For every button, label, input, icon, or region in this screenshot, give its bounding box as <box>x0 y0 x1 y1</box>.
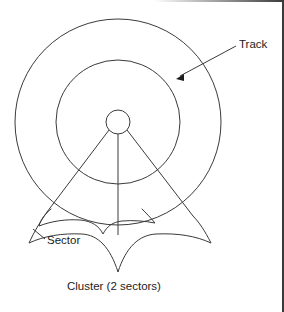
frame-top-border <box>154 0 284 2</box>
diagram-canvas: Track Sector Cluster (2 sectors) <box>0 0 284 312</box>
cluster-caption: Cluster (2 sectors) <box>67 281 161 293</box>
sector-brace <box>39 209 155 234</box>
hub-circle <box>106 110 130 134</box>
frame-right-border <box>282 0 284 312</box>
track-label: Track <box>239 39 267 51</box>
sector-label: Sector <box>47 235 80 247</box>
radial-line-right <box>127 130 193 216</box>
radial-line-left <box>47 130 109 212</box>
track-arrowhead-icon <box>176 74 184 81</box>
sector-leader-line <box>33 229 45 239</box>
